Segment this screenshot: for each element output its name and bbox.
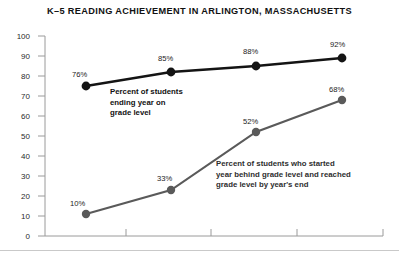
series-line-ending-on-level [86,58,342,86]
data-label: 10% [70,199,85,208]
data-label: 33% [157,174,172,183]
series-point [167,186,175,194]
annotation-ending-year-on-grade-level: Percent of students ending year on grade… [110,87,183,119]
series-point [167,68,176,77]
annotation-line: Percent of students [110,87,183,98]
data-label: 68% [329,85,344,94]
series-point [252,128,260,136]
data-label: 85% [158,54,173,63]
annotation-line: Percent of students who started [216,159,351,170]
data-label: 76% [72,70,87,79]
series-point [338,54,347,63]
annotation-line: grade level by year's end [216,180,351,191]
series-point [82,210,90,218]
chart-container: K–5 READING ACHIEVEMENT IN ARLINGTON, MA… [0,0,399,258]
data-label: 92% [330,40,345,49]
annotation-line: ending year on [110,98,183,109]
plot-area [0,0,399,258]
annotation-line: grade level [110,108,183,119]
bottom-divider [0,250,399,251]
data-label: 88% [243,47,258,56]
data-label: 52% [243,117,258,126]
series-point [338,96,346,104]
series-point [82,82,91,91]
annotation-started-behind-grade-level: Percent of students who started year beh… [216,159,351,191]
series-point [252,62,261,71]
annotation-line: year behind grade level and reached [216,170,351,181]
